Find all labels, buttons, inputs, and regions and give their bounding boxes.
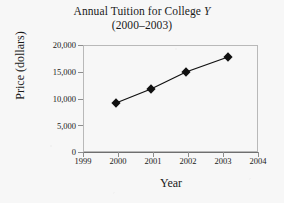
- y-tick-label-15000: 15,000: [16, 68, 76, 77]
- x-tick-label-2004: 2004: [238, 157, 278, 166]
- y-axis-title: Price (dollars): [13, 6, 28, 126]
- x-tick-label-2003: 2003: [203, 157, 243, 166]
- y-tick-label-0: 0: [16, 148, 76, 157]
- x-tick-label-2002: 2002: [168, 157, 208, 166]
- chart-title-italic: Y: [204, 5, 211, 17]
- x-tick-label-2001: 2001: [133, 157, 173, 166]
- plot-series-layer: [83, 45, 259, 153]
- y-tick-label-5000: 5,000: [16, 122, 76, 131]
- x-tick-label-2000: 2000: [98, 157, 138, 166]
- data-point-2002: [181, 67, 190, 77]
- series-line-annual-tuition: [116, 57, 228, 103]
- y-tick-label-20000: 20,000: [16, 41, 76, 50]
- chart-figure: Annual Tuition for College Y (2000–2003)…: [0, 0, 284, 203]
- chart-title-main: Annual Tuition for College: [74, 5, 204, 17]
- data-point-2000: [111, 98, 120, 108]
- x-tick-label-1999: 1999: [63, 157, 103, 166]
- y-tick-label-10000: 10,000: [16, 95, 76, 104]
- data-point-2003: [223, 52, 232, 62]
- data-point-2001: [146, 84, 155, 94]
- x-axis-title: Year: [83, 176, 259, 191]
- chart-title-block: Annual Tuition for College Y (2000–2003): [0, 4, 284, 33]
- chart-title: Annual Tuition for College Y: [0, 4, 284, 18]
- series-markers: [111, 52, 232, 108]
- chart-subtitle: (2000–2003): [0, 18, 284, 32]
